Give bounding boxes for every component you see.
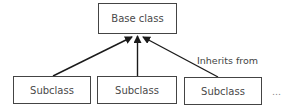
- subclass-label: Subclass: [201, 86, 245, 97]
- base-class-label: Base class: [111, 13, 163, 24]
- subclass-box-1: Subclass: [13, 76, 91, 104]
- subclass-box-3: Subclass: [184, 77, 262, 105]
- subclass-box-2: Subclass: [97, 76, 177, 104]
- subclass-label: Subclass: [30, 85, 74, 96]
- inherits-from-label: Inherits from: [197, 55, 258, 66]
- subclass-label: Subclass: [115, 85, 159, 96]
- base-class-box: Base class: [98, 3, 177, 34]
- arrow-left-to-base: [53, 37, 132, 76]
- more-subclasses-ellipsis: ...: [272, 86, 281, 97]
